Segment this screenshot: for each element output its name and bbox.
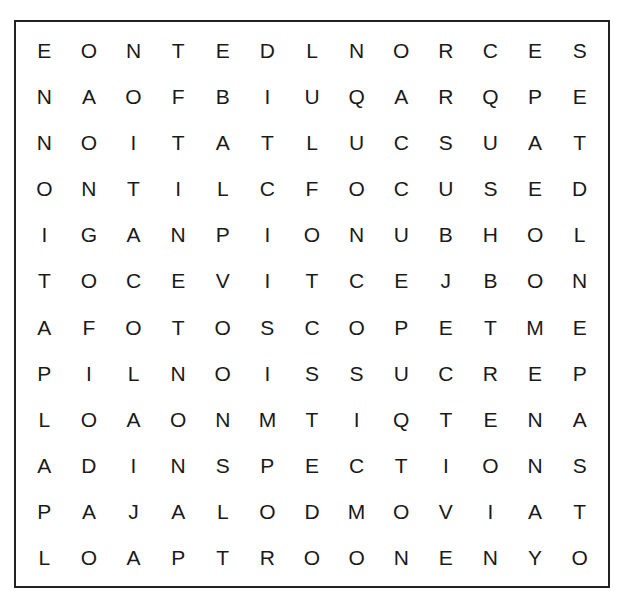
grid-cell[interactable]: N: [200, 396, 245, 442]
grid-cell[interactable]: P: [557, 350, 602, 396]
grid-cell[interactable]: O: [557, 535, 602, 581]
grid-cell[interactable]: C: [468, 27, 513, 73]
grid-cell[interactable]: N: [334, 27, 379, 73]
grid-cell[interactable]: E: [379, 258, 424, 304]
grid-cell[interactable]: C: [379, 119, 424, 165]
grid-cell[interactable]: P: [22, 350, 67, 396]
grid-cell[interactable]: L: [200, 489, 245, 535]
grid-cell[interactable]: S: [290, 350, 335, 396]
grid-cell[interactable]: S: [245, 304, 290, 350]
grid-cell[interactable]: T: [156, 304, 201, 350]
grid-cell[interactable]: E: [22, 27, 67, 73]
grid-cell[interactable]: T: [245, 119, 290, 165]
grid-cell[interactable]: C: [111, 258, 156, 304]
grid-cell[interactable]: D: [67, 443, 112, 489]
grid-cell[interactable]: N: [513, 396, 558, 442]
grid-cell[interactable]: N: [379, 535, 424, 581]
grid-cell[interactable]: F: [156, 73, 201, 119]
grid-cell[interactable]: T: [111, 166, 156, 212]
grid-cell[interactable]: O: [245, 489, 290, 535]
grid-cell[interactable]: N: [557, 258, 602, 304]
grid-cell[interactable]: T: [22, 258, 67, 304]
grid-cell[interactable]: S: [334, 350, 379, 396]
grid-cell[interactable]: B: [468, 258, 513, 304]
grid-cell[interactable]: O: [67, 27, 112, 73]
grid-cell[interactable]: B: [200, 73, 245, 119]
grid-cell[interactable]: O: [111, 304, 156, 350]
grid-cell[interactable]: O: [67, 396, 112, 442]
grid-cell[interactable]: M: [513, 304, 558, 350]
grid-cell[interactable]: G: [67, 212, 112, 258]
grid-cell[interactable]: E: [557, 73, 602, 119]
grid-cell[interactable]: N: [22, 73, 67, 119]
grid-cell[interactable]: A: [513, 119, 558, 165]
grid-cell[interactable]: P: [513, 73, 558, 119]
grid-cell[interactable]: S: [424, 119, 469, 165]
grid-cell[interactable]: P: [200, 212, 245, 258]
grid-cell[interactable]: E: [468, 396, 513, 442]
grid-cell[interactable]: O: [468, 443, 513, 489]
grid-cell[interactable]: I: [424, 443, 469, 489]
grid-cell[interactable]: O: [513, 258, 558, 304]
grid-cell[interactable]: N: [67, 166, 112, 212]
grid-cell[interactable]: C: [290, 304, 335, 350]
grid-cell[interactable]: E: [290, 443, 335, 489]
grid-cell[interactable]: N: [22, 119, 67, 165]
grid-cell[interactable]: A: [22, 304, 67, 350]
grid-cell[interactable]: I: [156, 166, 201, 212]
grid-cell[interactable]: Y: [513, 535, 558, 581]
grid-cell[interactable]: R: [468, 350, 513, 396]
grid-cell[interactable]: O: [111, 73, 156, 119]
grid-cell[interactable]: O: [22, 166, 67, 212]
grid-cell[interactable]: C: [334, 443, 379, 489]
grid-cell[interactable]: D: [557, 166, 602, 212]
grid-cell[interactable]: A: [200, 119, 245, 165]
grid-cell[interactable]: O: [334, 166, 379, 212]
grid-cell[interactable]: E: [513, 350, 558, 396]
grid-cell[interactable]: I: [245, 212, 290, 258]
grid-cell[interactable]: N: [334, 212, 379, 258]
grid-cell[interactable]: E: [557, 304, 602, 350]
grid-cell[interactable]: T: [557, 489, 602, 535]
grid-cell[interactable]: O: [290, 212, 335, 258]
grid-cell[interactable]: S: [557, 27, 602, 73]
grid-cell[interactable]: N: [156, 212, 201, 258]
grid-cell[interactable]: J: [424, 258, 469, 304]
grid-cell[interactable]: A: [67, 73, 112, 119]
grid-cell[interactable]: T: [156, 119, 201, 165]
grid-cell[interactable]: P: [245, 443, 290, 489]
grid-cell[interactable]: R: [424, 73, 469, 119]
grid-cell[interactable]: D: [245, 27, 290, 73]
grid-cell[interactable]: A: [513, 489, 558, 535]
grid-cell[interactable]: R: [424, 27, 469, 73]
grid-cell[interactable]: C: [424, 350, 469, 396]
grid-cell[interactable]: H: [468, 212, 513, 258]
grid-cell[interactable]: F: [67, 304, 112, 350]
grid-cell[interactable]: A: [557, 396, 602, 442]
grid-cell[interactable]: I: [334, 396, 379, 442]
grid-cell[interactable]: T: [379, 443, 424, 489]
grid-cell[interactable]: U: [424, 166, 469, 212]
grid-cell[interactable]: E: [513, 166, 558, 212]
grid-cell[interactable]: B: [424, 212, 469, 258]
grid-cell[interactable]: S: [557, 443, 602, 489]
grid-cell[interactable]: C: [379, 166, 424, 212]
grid-cell[interactable]: L: [22, 396, 67, 442]
grid-cell[interactable]: U: [379, 212, 424, 258]
grid-cell[interactable]: N: [156, 350, 201, 396]
grid-cell[interactable]: A: [379, 73, 424, 119]
grid-cell[interactable]: A: [111, 212, 156, 258]
grid-cell[interactable]: O: [290, 535, 335, 581]
grid-cell[interactable]: Q: [379, 396, 424, 442]
grid-cell[interactable]: O: [379, 27, 424, 73]
grid-cell[interactable]: P: [379, 304, 424, 350]
grid-cell[interactable]: T: [468, 304, 513, 350]
grid-cell[interactable]: J: [111, 489, 156, 535]
grid-cell[interactable]: O: [200, 350, 245, 396]
grid-cell[interactable]: N: [156, 443, 201, 489]
grid-cell[interactable]: T: [290, 396, 335, 442]
grid-cell[interactable]: M: [334, 489, 379, 535]
grid-cell[interactable]: O: [513, 212, 558, 258]
grid-cell[interactable]: L: [111, 350, 156, 396]
grid-cell[interactable]: E: [424, 535, 469, 581]
